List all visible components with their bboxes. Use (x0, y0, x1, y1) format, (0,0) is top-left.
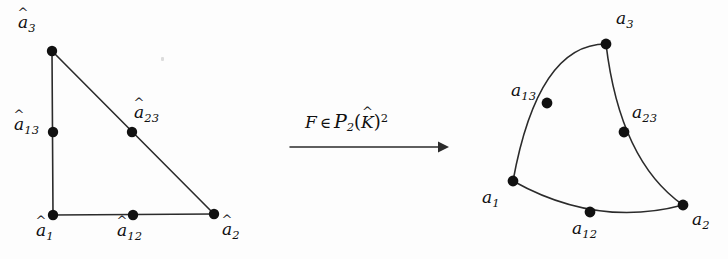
hat-accent-a13: ^ (14, 108, 25, 121)
hat-accent-a2: ^ (222, 213, 233, 226)
label-a2hat: ^a2 (222, 221, 240, 241)
label-a12hat: ^a12 (117, 222, 142, 242)
label-a2: a2 (692, 211, 710, 231)
edge-a1-a3-curved (513, 44, 606, 181)
label-a3: a3 (616, 10, 634, 30)
label-a2-sub: 2 (702, 218, 710, 232)
right-triangle-edges (513, 44, 683, 213)
hat-accent-a1: ^ (36, 214, 47, 227)
power-exponent: 2 (381, 111, 388, 125)
label-a23-base: a (632, 102, 642, 122)
label-a13hat-sub: 13 (24, 123, 39, 137)
mapping-arrow-graphic (290, 142, 449, 153)
polynomial-space-symbol: P (334, 110, 347, 132)
label-a3-sub: 3 (626, 17, 634, 31)
label-a23-sub: 23 (642, 111, 657, 125)
label-a1-sub: 1 (492, 196, 500, 210)
node-a2hat (209, 209, 219, 219)
label-a12-sub: 12 (582, 227, 597, 241)
label-a12: a12 (572, 220, 597, 240)
label-a1-base: a (482, 187, 492, 207)
hat-accent-a23: ^ (134, 96, 145, 109)
label-a1hat-sub: 1 (46, 229, 54, 243)
node-a1hat (48, 210, 58, 220)
mapping-arrow-label: F∈P2(^K)2 (305, 110, 388, 134)
label-a23hat-sub: 23 (144, 111, 159, 125)
node-a2 (678, 200, 689, 211)
arrow-head-icon (438, 142, 449, 153)
node-a12hat (128, 210, 138, 220)
membership-symbol: ∈ (317, 114, 334, 132)
label-a13-base: a (511, 80, 521, 100)
node-a12 (585, 207, 596, 218)
edge-a1-a2-curved (513, 181, 683, 213)
figure-canvas: ^a3 ^a13 ^a23 ^a1 ^a12 ^a2 F∈P2(^K)2 a3 … (0, 0, 728, 259)
node-a23hat (127, 127, 137, 137)
node-a3 (601, 39, 612, 50)
close-paren: ) (374, 111, 381, 132)
label-a2-base: a (692, 209, 702, 229)
node-a3hat (47, 46, 57, 56)
map-symbol: F (305, 112, 317, 132)
node-a13 (542, 98, 553, 109)
polynomial-degree-sub: 2 (347, 120, 354, 134)
label-a12-base: a (572, 218, 582, 238)
node-a1 (508, 176, 519, 187)
node-a23 (619, 127, 630, 138)
label-a3hat-sub: 3 (28, 21, 36, 35)
label-a13-sub: 13 (521, 89, 536, 103)
label-a23: a23 (632, 104, 657, 124)
label-a13: a13 (511, 82, 536, 102)
label-a1: a1 (482, 189, 500, 209)
label-a3-base: a (616, 8, 626, 28)
label-a23hat: ^a23 (134, 104, 159, 124)
right-triangle-nodes (508, 39, 689, 218)
node-a13hat (48, 127, 58, 137)
label-a13hat: ^a13 (14, 116, 39, 136)
label-a3hat: ^a3 (18, 14, 36, 34)
label-a1hat: ^a1 (36, 222, 54, 242)
hat-accent-K: ^ (362, 104, 373, 119)
hat-accent-a3: ^ (18, 6, 29, 19)
label-a12hat-sub: 12 (127, 229, 142, 243)
open-paren: ( (354, 111, 361, 132)
label-a2hat-sub: 2 (232, 228, 240, 242)
hat-accent-a12: ^ (117, 214, 128, 227)
